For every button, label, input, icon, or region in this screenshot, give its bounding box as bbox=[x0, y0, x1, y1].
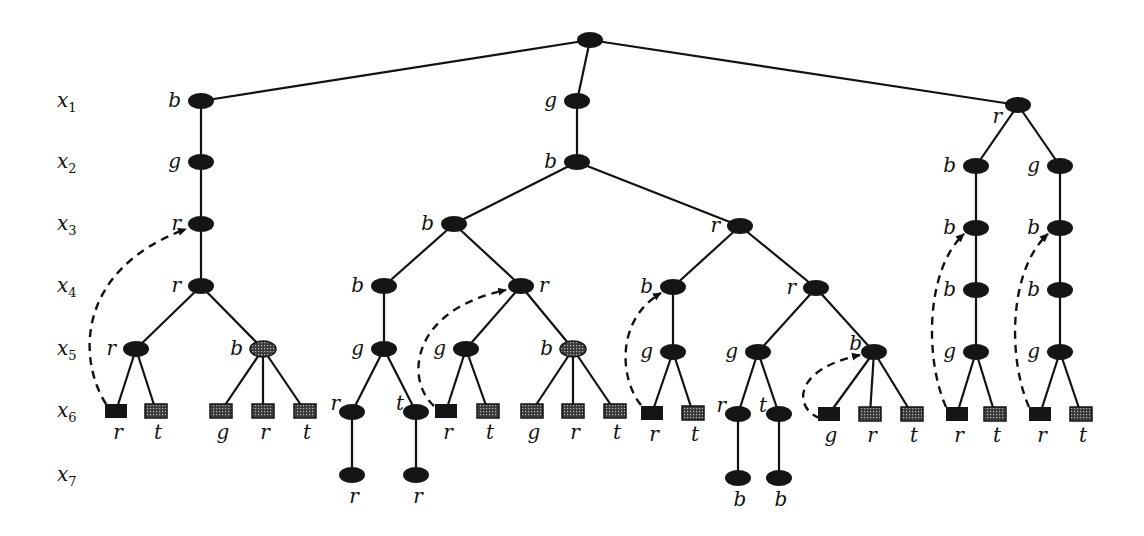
edge bbox=[573, 349, 615, 411]
edge bbox=[1040, 352, 1060, 414]
node-value-label: b bbox=[421, 211, 434, 235]
leaf-node bbox=[252, 404, 274, 418]
node-value-label: b bbox=[230, 336, 243, 360]
tree-node bbox=[371, 341, 397, 357]
tree-node bbox=[660, 344, 686, 360]
edge bbox=[740, 226, 816, 288]
node-value-label: t bbox=[396, 391, 405, 415]
tree-node bbox=[725, 470, 751, 486]
tree-node bbox=[403, 404, 429, 420]
edge bbox=[1060, 352, 1081, 414]
leaf-node bbox=[604, 404, 626, 418]
node-value-label: r bbox=[106, 336, 117, 360]
row-label-x1: x1 bbox=[57, 88, 77, 115]
leaf-node bbox=[682, 406, 704, 420]
row-label-x6: x6 bbox=[57, 398, 77, 425]
edge bbox=[466, 286, 521, 349]
edge bbox=[738, 352, 758, 414]
node-value-label: g bbox=[217, 420, 230, 444]
leaf-node bbox=[145, 404, 167, 418]
node-value-label: b bbox=[943, 215, 956, 239]
node-value-label: r bbox=[1037, 423, 1048, 447]
tree-node bbox=[1047, 282, 1073, 298]
node-value-label: t bbox=[759, 393, 768, 417]
node-value-label: t bbox=[613, 420, 622, 444]
row-label-x2: x2 bbox=[57, 149, 77, 176]
tree-node bbox=[766, 470, 792, 486]
node-value-label: r bbox=[260, 420, 271, 444]
tree-node bbox=[727, 218, 753, 234]
edge bbox=[466, 349, 488, 411]
tree-node bbox=[766, 406, 792, 422]
leaf-node bbox=[210, 404, 232, 418]
node-value-label: b bbox=[1027, 277, 1040, 301]
node-value-label: b bbox=[775, 487, 788, 511]
leaf-node bbox=[294, 404, 316, 418]
node-value-label: r bbox=[330, 391, 341, 415]
node-value-label: b bbox=[943, 153, 956, 177]
node-value-label: r bbox=[716, 393, 727, 417]
edge bbox=[263, 349, 305, 411]
edge bbox=[976, 352, 995, 414]
node-value-label: t bbox=[1079, 423, 1088, 447]
tree-node bbox=[371, 278, 397, 294]
leaf-node bbox=[521, 404, 543, 418]
backjump-arrow bbox=[90, 229, 186, 404]
tree-node bbox=[403, 467, 429, 483]
tree-node bbox=[564, 93, 590, 109]
variable-row-labels: x1x2x3x4x5x6x7 bbox=[57, 88, 77, 489]
node-value-label: r bbox=[539, 273, 550, 297]
node-value-label: t bbox=[691, 422, 700, 446]
node-value-label: t bbox=[154, 420, 163, 444]
node-value-label: r bbox=[113, 420, 124, 444]
node-value-label: b bbox=[540, 336, 553, 360]
leaf-node bbox=[901, 407, 923, 421]
edge bbox=[590, 40, 1018, 105]
tree-node bbox=[725, 406, 751, 422]
tree-node bbox=[963, 344, 989, 360]
node-value-label: t bbox=[303, 420, 312, 444]
node-value-label: r bbox=[413, 484, 424, 508]
node-value-label: g bbox=[351, 336, 364, 360]
leaf-node bbox=[435, 404, 457, 418]
node-value-label: b bbox=[849, 331, 862, 355]
tree-nodes: bgrrrbrtgrtgbbrbrgrtrrgbrtgrtbrgrtgrtbbb… bbox=[105, 32, 1092, 511]
leaf-node bbox=[641, 406, 663, 420]
node-value-label: g bbox=[825, 423, 838, 447]
edge bbox=[454, 162, 577, 224]
node-value-label: r bbox=[786, 275, 797, 299]
tree-node bbox=[745, 344, 771, 360]
edge bbox=[384, 224, 454, 286]
root-node bbox=[577, 32, 603, 48]
node-value-label: b bbox=[351, 273, 364, 297]
edge bbox=[136, 349, 156, 411]
tree-node bbox=[963, 220, 989, 236]
node-value-label: g bbox=[544, 88, 557, 112]
backjump-arrows bbox=[90, 229, 1048, 418]
node-value-label: g bbox=[725, 339, 738, 363]
edge bbox=[454, 224, 521, 286]
node-value-label: r bbox=[867, 423, 878, 447]
node-value-label: g bbox=[1027, 153, 1040, 177]
node-value-label: b bbox=[1027, 215, 1040, 239]
node-value-label: g bbox=[168, 149, 181, 173]
leaf-node bbox=[105, 404, 127, 418]
node-value-label: r bbox=[992, 104, 1003, 128]
node-value-label: g bbox=[528, 420, 541, 444]
tree-node bbox=[1005, 97, 1031, 113]
node-value-label: g bbox=[433, 336, 446, 360]
edge bbox=[673, 352, 693, 413]
row-label-x3: x3 bbox=[57, 211, 77, 238]
node-value-label: b bbox=[734, 487, 747, 511]
edge bbox=[652, 352, 673, 413]
tree-svg: x1x2x3x4x5x6x7 bgrrrbrtgrtgbbrbrgrtrrgbr… bbox=[0, 0, 1144, 536]
node-value-label: r bbox=[171, 273, 182, 297]
leaf-node bbox=[859, 407, 881, 421]
tree-node bbox=[441, 216, 467, 232]
tree-node bbox=[188, 154, 214, 170]
tree-node bbox=[188, 93, 214, 109]
node-value-label: t bbox=[486, 420, 495, 444]
node-value-label: t bbox=[993, 423, 1002, 447]
row-label-x4: x4 bbox=[57, 273, 77, 300]
leaf-node bbox=[477, 404, 499, 418]
